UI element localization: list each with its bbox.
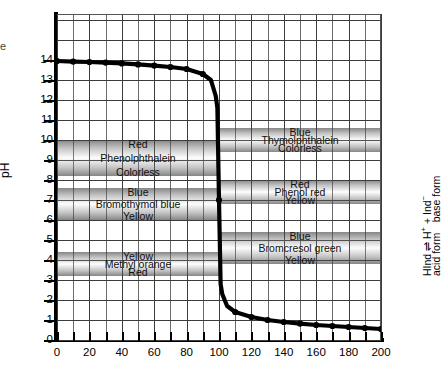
band-indicator-name: Bromcresol green (210, 243, 390, 254)
x-tick-mark (170, 332, 172, 342)
curve-data-point (232, 309, 238, 315)
curve-data-point (329, 323, 335, 329)
x-tick-mark (332, 332, 334, 342)
x-tick-mark (316, 332, 318, 342)
grid-line-vertical (381, 14, 382, 340)
band-indicator-name: Phenolphthalein (48, 153, 228, 164)
x-tick-mark (365, 332, 367, 342)
x-tick-mark (57, 332, 59, 342)
curve-data-point (297, 321, 303, 327)
x-tick-mark (122, 332, 124, 342)
curve-data-point (362, 325, 368, 331)
band-bottom-color-label: Yellow (210, 255, 390, 266)
curve-data-point (103, 60, 109, 66)
band-bottom-color-label: Red (48, 267, 228, 278)
x-tick-mark (251, 332, 253, 342)
x-tick-mark (154, 332, 156, 342)
y-tick-mark (44, 300, 54, 302)
x-tick-mark (268, 332, 270, 342)
x-tick-label: 200 (361, 346, 401, 358)
y-tick-mark (44, 180, 54, 182)
curve-data-point (184, 66, 190, 72)
x-tick-mark (235, 332, 237, 342)
band-top-color-label: Red (48, 139, 228, 150)
curve-data-point (265, 317, 271, 323)
x-tick-mark (138, 332, 140, 342)
y-tick-mark (44, 100, 54, 102)
cropped-edge-glyph: e (0, 40, 6, 52)
band-bottom-color-label: Yellow (210, 195, 390, 206)
x-tick-mark (73, 332, 75, 342)
y-axis-label: pH (0, 163, 12, 178)
x-tick-mark (187, 332, 189, 342)
y-tick-mark (44, 80, 54, 82)
curve-data-point (151, 63, 157, 69)
curve-data-point (281, 319, 287, 325)
x-tick-mark (284, 332, 286, 342)
curve-data-point (135, 61, 141, 67)
curve-data-point (167, 64, 173, 70)
x-tick-mark (106, 332, 108, 342)
x-tick-mark (89, 332, 91, 342)
curve-data-point (313, 322, 319, 328)
x-tick-mark (349, 332, 351, 342)
curve-data-point (200, 71, 206, 77)
band-indicator-name: Bromothymol blue (48, 199, 228, 210)
x-tick-mark (381, 332, 383, 342)
curve-data-point (70, 59, 76, 65)
acid-base-form-labels: acid form base form (431, 176, 442, 276)
y-tick-mark (44, 280, 54, 282)
y-tick-mark (44, 120, 54, 122)
band-bottom-color-label: Colorless (210, 143, 390, 154)
y-tick-mark (44, 60, 54, 62)
band-bottom-color-label: Yellow (48, 211, 228, 222)
x-tick-mark (219, 332, 221, 342)
curve-data-point (346, 324, 352, 330)
curve-data-point (248, 314, 254, 320)
curve-data-point (86, 59, 92, 65)
x-tick-mark (300, 332, 302, 342)
y-tick-mark (44, 320, 54, 322)
indicator-equilibrium-annotation: HInd ⇌ H+ + Ind− acid form base form (388, 108, 434, 278)
band-bottom-color-label: Colorless (48, 167, 228, 178)
band-top-color-label: Blue (48, 187, 228, 198)
band-top-color-label: Blue (210, 231, 390, 242)
y-tick-mark (44, 240, 54, 242)
y-tick-mark (44, 340, 54, 342)
x-tick-mark (203, 332, 205, 342)
curve-data-point (119, 60, 125, 66)
